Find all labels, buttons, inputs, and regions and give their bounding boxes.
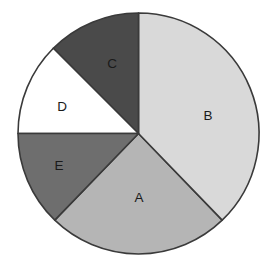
pie-chart-svg: ABCDE (0, 0, 277, 261)
pie-chart-container: ABCDE (0, 0, 277, 261)
pie-slice-label-e: E (54, 158, 63, 173)
pie-slice-label-d: D (57, 99, 67, 114)
pie-slices-group (18, 13, 259, 254)
pie-slice-label-b: B (203, 108, 212, 123)
pie-slice-label-a: A (134, 190, 143, 205)
pie-slice-label-c: C (107, 56, 117, 71)
